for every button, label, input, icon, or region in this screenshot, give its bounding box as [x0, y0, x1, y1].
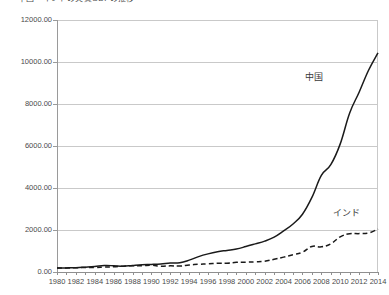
y-tick-mark	[53, 146, 57, 147]
y-tick-mark	[53, 188, 57, 189]
series-line-china	[57, 53, 378, 268]
y-tick-mark	[53, 62, 57, 63]
y-tick-mark	[53, 272, 57, 273]
chart-container: 中国・インドの実質GDPの推移 0.002000.004000.006000.0…	[0, 0, 389, 295]
series-line-india	[57, 229, 378, 268]
y-tick-mark	[53, 104, 57, 105]
series-label-china: 中国	[305, 72, 323, 82]
y-tick-mark	[53, 20, 57, 21]
y-tick-mark	[53, 230, 57, 231]
series-label-india: インド	[333, 208, 360, 218]
series-lines	[0, 0, 389, 295]
